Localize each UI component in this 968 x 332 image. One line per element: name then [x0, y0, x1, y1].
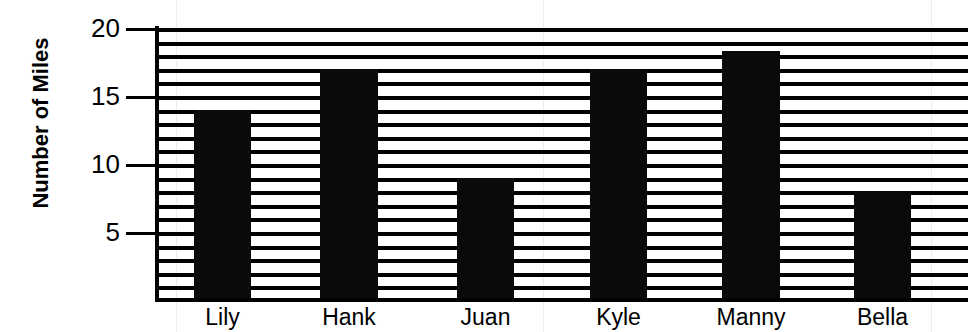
plot-area: [155, 26, 968, 302]
x-label-juan: Juan: [416, 303, 556, 332]
y-tick-label: 10: [74, 151, 120, 177]
x-axis-category-labels: LilyHankJuanKyleMannyBella: [0, 303, 968, 332]
x-label-hank: Hank: [279, 303, 419, 332]
bar-chart: Number of Miles 2015105 LilyHankJuanKyle…: [0, 0, 968, 332]
x-label-bella: Bella: [813, 303, 953, 332]
y-tick-mark: [126, 96, 156, 99]
y-tick-mark: [126, 164, 156, 167]
x-label-lily: Lily: [153, 303, 293, 332]
plot-frame: [155, 26, 968, 302]
y-tick-label: 15: [74, 83, 120, 109]
x-label-kyle: Kyle: [549, 303, 689, 332]
y-tick-mark: [126, 28, 156, 31]
y-axis-tick-labels: 2015105: [48, 0, 120, 332]
y-tick-label: 20: [74, 15, 120, 41]
y-tick-mark: [126, 232, 156, 235]
y-tick-label: 5: [74, 219, 120, 245]
x-label-manny: Manny: [681, 303, 821, 332]
